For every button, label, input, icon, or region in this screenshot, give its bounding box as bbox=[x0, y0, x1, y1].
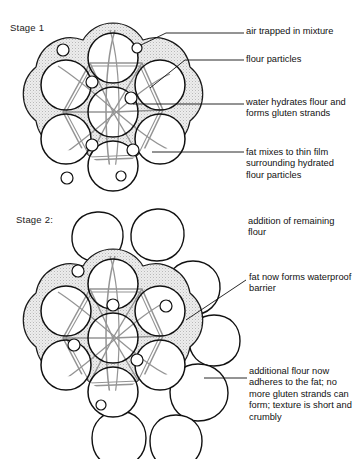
air-bubble bbox=[132, 43, 142, 53]
callout-air-trapped: air trapped in mixture bbox=[246, 26, 352, 37]
added-flour-particle bbox=[92, 411, 146, 459]
air-bubble bbox=[96, 400, 106, 410]
air-bubble bbox=[57, 44, 69, 56]
callout-water-hydrates: water hydrates flour and forms gluten st… bbox=[246, 97, 352, 120]
stage2-diagram bbox=[23, 209, 247, 459]
callout-fat-waterproof-barrier: fat now forms waterproof barrier bbox=[249, 272, 355, 295]
air-bubble bbox=[86, 139, 98, 151]
air-bubble bbox=[127, 144, 139, 156]
fat-film-stage1 bbox=[23, 23, 202, 191]
stage1-label: Stage 1 bbox=[10, 22, 44, 33]
air-bubble bbox=[160, 300, 172, 312]
air-bubble bbox=[72, 265, 84, 277]
air-bubble bbox=[107, 299, 119, 311]
added-flour-particle bbox=[131, 209, 184, 261]
callout-fat-film: fat mixes to thin film surrounding hydra… bbox=[246, 147, 352, 181]
air-bubble bbox=[125, 92, 137, 104]
air-bubble bbox=[68, 339, 80, 351]
air-bubble bbox=[86, 76, 98, 88]
callout-flour-particles: flour particles bbox=[246, 54, 352, 65]
callout-additional-flour: additional flour now adheres to the fat;… bbox=[249, 366, 355, 423]
air-bubble bbox=[116, 171, 126, 181]
stage2-label: Stage 2: bbox=[16, 214, 53, 225]
air-bubble bbox=[61, 172, 73, 184]
air-bubble bbox=[131, 354, 143, 366]
stage1-diagram bbox=[23, 23, 244, 192]
callout-addition-remaining-flour: addition of remaining flour bbox=[248, 216, 354, 239]
added-flour-particle bbox=[150, 415, 202, 459]
